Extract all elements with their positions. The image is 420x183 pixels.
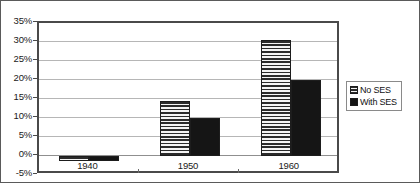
bar-1960-with-ses: [291, 80, 321, 156]
y-axis-tick-label: -5%: [1, 167, 32, 178]
y-axis-tick-label: 20%: [1, 72, 32, 83]
legend-label-no-ses: No SES: [360, 85, 391, 95]
y-axis-tick-label: 35%: [1, 15, 32, 26]
x-axis-tick-mark: [238, 169, 239, 173]
x-axis-tick-label-1960: 1960: [264, 160, 314, 171]
y-axis-tick-label: 15%: [1, 91, 32, 102]
bar-1950-no-ses: [160, 101, 190, 156]
y-axis-tick-mark: [33, 173, 37, 174]
legend-item-with-ses[interactable]: With SES: [350, 96, 399, 107]
y-axis-tick-label: 25%: [1, 53, 32, 64]
plot-area: [37, 21, 339, 173]
legend-item-no-ses[interactable]: No SES: [350, 85, 399, 96]
legend-label-with-ses: With SES: [360, 97, 397, 107]
x-axis-tick-label-1940: 1940: [62, 160, 112, 171]
y-axis-tick-label: 5%: [1, 129, 32, 140]
y-axis-tick-label: 30%: [1, 34, 32, 45]
gridline: [39, 41, 337, 42]
x-axis-tick-label-1950: 1950: [163, 160, 213, 171]
x-axis-tick-mark: [138, 169, 139, 173]
legend-swatch-no-ses: [350, 86, 358, 94]
gridline: [39, 60, 337, 61]
y-axis-tick-label: 10%: [1, 110, 32, 121]
y-axis-tick-label: 0%: [1, 148, 32, 159]
bar-1950-with-ses: [190, 118, 220, 156]
bar-1960-no-ses: [261, 40, 291, 156]
chart-legend: No SES With SES: [346, 81, 402, 111]
legend-swatch-with-ses: [350, 98, 358, 106]
bar-chart: 35%30%25%20%15%10%5%0%-5% 194019501960 N…: [0, 0, 420, 183]
